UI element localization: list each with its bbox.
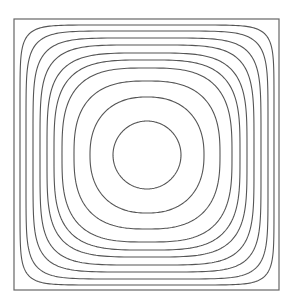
contour-line-10 [20,25,274,285]
contour-plot-canvas [0,0,298,307]
contour-line-6 [47,53,247,257]
contour-plot [0,0,298,307]
contour-line-5 [54,60,240,250]
contour-line-7 [40,45,254,265]
contour-line-1 [113,121,181,189]
contour-lines [20,25,274,285]
contour-line-8 [33,38,261,272]
contour-line-2 [90,97,204,213]
contour-line-4 [62,68,232,242]
contour-line-3 [74,81,220,229]
